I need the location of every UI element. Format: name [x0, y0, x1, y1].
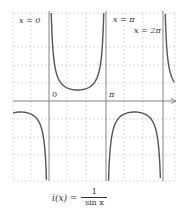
x-axis: [13, 99, 176, 104]
curve-segment: [51, 13, 104, 90]
asymptote-label-x0: x = 0: [19, 17, 40, 25]
tick-label-pi: π: [109, 91, 114, 99]
tick-label-0: 0: [52, 91, 57, 99]
asymptote-label-x2pi: x = 2π: [134, 27, 161, 35]
function-curves: [13, 13, 174, 181]
asymptote-label-xpi: x = π: [113, 16, 135, 24]
formula-fraction: 1 sin x: [81, 188, 107, 207]
curve-segment: [109, 112, 161, 181]
function-formula: i(x) = 1 sin x: [52, 188, 107, 207]
curve-segment: [165, 14, 174, 82]
grid: [13, 13, 175, 181]
formula-numerator: 1: [92, 188, 97, 197]
formula-lhs: i(x) =: [52, 193, 77, 203]
formula-denominator: sin x: [85, 198, 104, 208]
asymptote-lines: [49, 11, 163, 181]
curve-segment: [13, 112, 46, 180]
